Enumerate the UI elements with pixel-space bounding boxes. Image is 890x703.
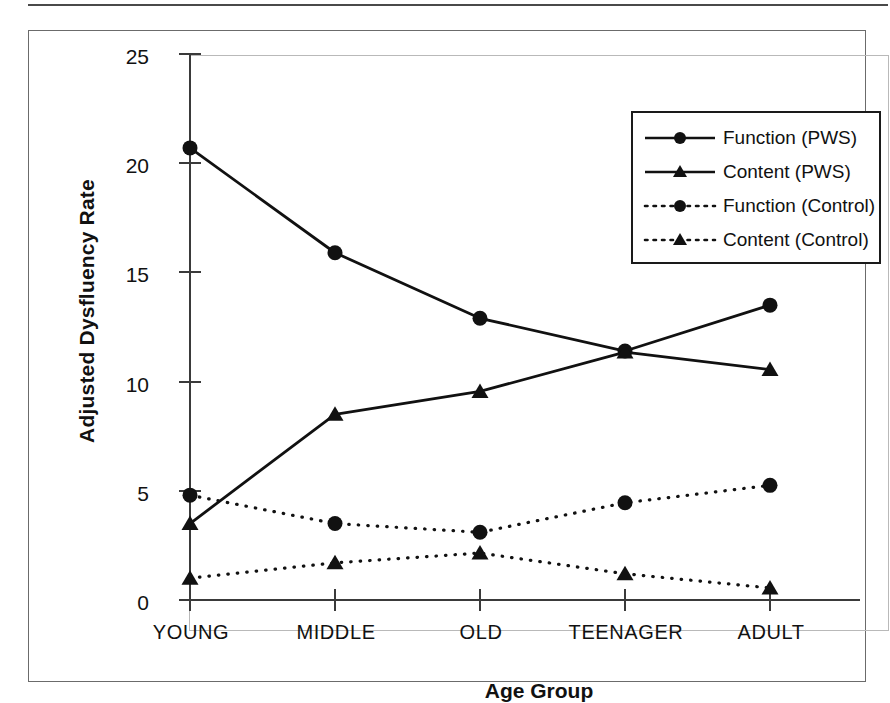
datapoint-function-pws-young xyxy=(183,140,198,155)
datapoint-content-control-teenager xyxy=(617,566,634,581)
series-function-control xyxy=(183,478,778,540)
series-line-content-pws xyxy=(190,352,770,523)
datapoint-function-control-adult xyxy=(763,478,778,493)
datapoint-function-control-middle xyxy=(328,516,343,531)
series-function-pws xyxy=(183,140,778,358)
datapoint-content-control-adult xyxy=(762,580,779,595)
series-content-pws xyxy=(182,344,779,530)
data-series-layer xyxy=(182,140,779,594)
datapoint-content-control-young xyxy=(182,570,199,585)
datapoint-function-pws-middle xyxy=(328,245,343,260)
datapoint-function-pws-old xyxy=(473,311,488,326)
datapoint-function-control-young xyxy=(183,488,198,503)
datapoint-function-control-teenager xyxy=(618,495,633,510)
series-content-control xyxy=(182,545,779,594)
datapoint-function-control-old xyxy=(473,525,488,540)
datapoint-function-pws-adult xyxy=(763,298,778,313)
